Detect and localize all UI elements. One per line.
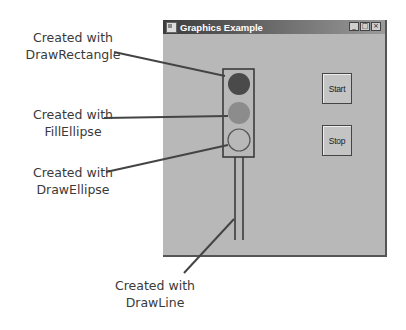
leader-line-drawline <box>184 219 234 273</box>
red-light-circle <box>228 73 250 95</box>
yellow-light-circle <box>228 102 250 124</box>
leader-line-rectangle <box>114 52 225 76</box>
green-light-circle <box>228 129 250 151</box>
leader-line-fillellipse <box>104 116 228 118</box>
leader-line-drawellipse <box>106 145 228 172</box>
drawing-layer <box>0 0 406 330</box>
